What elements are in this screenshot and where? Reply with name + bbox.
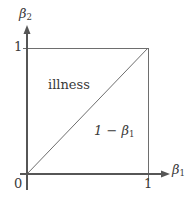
y-axis-label-subscript: 2 [27,12,32,22]
region-label-illness: illness [48,78,90,91]
x-axis-label: β1 [172,163,185,178]
y-axis-label-symbol: β [19,6,27,21]
diagonal-line [27,48,148,174]
y-axis-label: β2 [19,7,32,22]
x-axis-label-symbol: β [172,162,180,177]
x-axis-label-subscript: 1 [180,168,185,178]
region-expression-text: 1 − β [94,123,129,138]
x-axis-arrow-icon [161,171,170,178]
region-expression-subscript: 1 [129,129,134,139]
figure-canvas: β2 β1 1 0 1 illness 1 − β1 [0,0,196,200]
x-axis-tick-label-one: 1 [144,177,152,190]
region-label-expression: 1 − β1 [94,124,134,139]
origin-label-zero: 0 [14,177,22,190]
y-axis-tick-label-one: 1 [14,40,22,53]
y-axis-arrow-icon [24,25,31,34]
diagram-svg [0,0,196,200]
